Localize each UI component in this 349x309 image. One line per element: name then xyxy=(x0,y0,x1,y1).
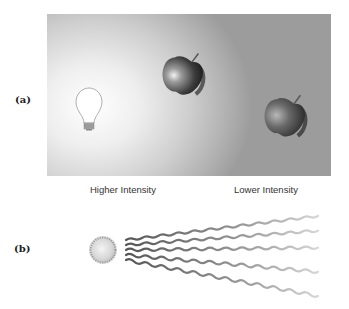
ray-1 xyxy=(126,216,318,240)
ray-3 xyxy=(126,247,318,252)
ray-4 xyxy=(126,254,318,273)
ray-5 xyxy=(126,259,318,297)
diagram-graphics xyxy=(0,0,349,309)
lower-intensity-caption: Lower Intensity xyxy=(234,184,298,195)
intensity-rays xyxy=(126,216,318,297)
apple-icon-far xyxy=(260,87,312,140)
light-source-icon xyxy=(89,236,117,264)
higher-intensity-caption: Higher Intensity xyxy=(90,184,156,195)
apple-icon-near xyxy=(158,46,210,99)
panel-b-label: (b) xyxy=(14,243,30,254)
light-bulb-icon xyxy=(76,88,102,131)
